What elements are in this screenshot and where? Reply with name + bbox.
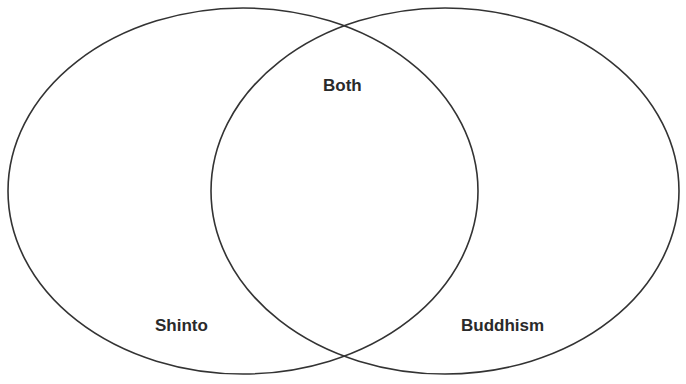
intersection-label: Both: [323, 76, 362, 96]
venn-diagram: [0, 0, 686, 384]
buddhism-label: Buddhism: [461, 316, 544, 336]
shinto-ellipse: [8, 8, 478, 374]
shinto-label: Shinto: [155, 316, 208, 336]
buddhism-ellipse: [211, 8, 679, 374]
